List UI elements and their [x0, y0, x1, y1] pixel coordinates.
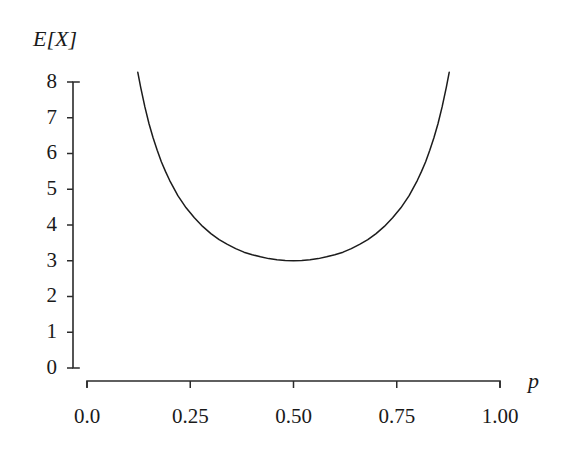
y-tick-label: 6 [47, 140, 58, 164]
y-tick-label: 3 [47, 248, 58, 272]
y-tick-label: 1 [47, 319, 58, 343]
chart-background [0, 0, 577, 468]
y-axis-tick-labels: 012345678 [47, 69, 58, 379]
x-tick-label: 0.25 [172, 404, 209, 428]
y-tick-label: 4 [47, 212, 58, 236]
y-tick-label: 8 [47, 69, 58, 93]
y-tick-label: 7 [47, 105, 58, 129]
x-axis-title: p [526, 368, 539, 393]
y-tick-label: 0 [47, 355, 58, 379]
y-tick-label: 5 [47, 176, 58, 200]
x-tick-label: 0.0 [74, 404, 100, 428]
x-tick-label: 0.75 [378, 404, 415, 428]
x-tick-label: 1.00 [482, 404, 519, 428]
chart-figure: E[X] p 012345678 0.00.250.500.751.00 [0, 0, 577, 468]
y-axis-title: E[X] [32, 26, 77, 51]
expected-value-line-chart: E[X] p 012345678 0.00.250.500.751.00 [0, 0, 577, 468]
y-tick-label: 2 [47, 283, 58, 307]
x-tick-label: 0.50 [275, 404, 312, 428]
